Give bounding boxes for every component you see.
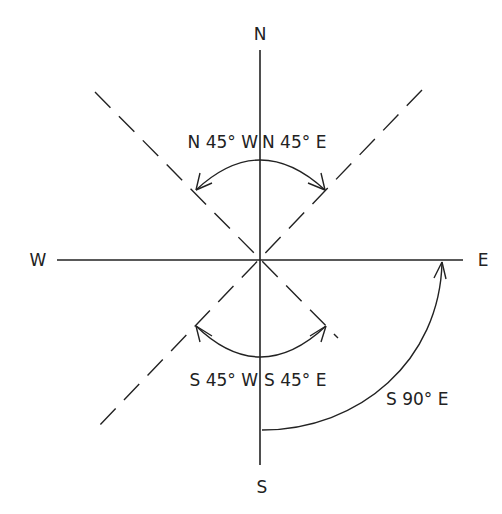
- label-west: W: [30, 250, 47, 270]
- label-s45w: S 45° W: [189, 370, 258, 390]
- label-n45e: N 45° E: [262, 132, 326, 152]
- label-s90e: S 90° E: [386, 389, 448, 409]
- compass-diagram: N S W E N 45° W N 45° E S 45° W S 45° E …: [0, 0, 502, 514]
- label-north: N: [254, 24, 267, 44]
- label-s45e: S 45° E: [264, 370, 326, 390]
- label-n45w: N 45° W: [188, 132, 259, 152]
- south-arc: [196, 326, 326, 357]
- label-south: S: [257, 477, 268, 497]
- label-east: E: [478, 250, 489, 270]
- east-arrowhead-icon: [434, 262, 446, 279]
